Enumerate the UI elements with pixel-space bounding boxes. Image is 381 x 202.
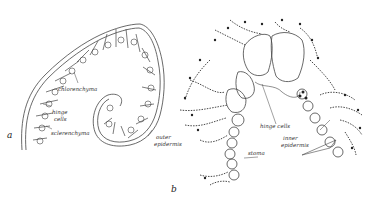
label-hinge-cells-a-line2: cells bbox=[54, 117, 67, 123]
label-hinge-cells-b: hinge cells bbox=[260, 124, 290, 130]
label-sclerenchyma: sclerenchyma bbox=[51, 131, 90, 137]
label-inner-epidermis-line2: epidermis bbox=[281, 143, 309, 149]
panel-letter-b: b bbox=[171, 184, 177, 194]
panel-b-detail-drawing bbox=[180, 19, 362, 185]
label-stoma: stoma bbox=[248, 151, 265, 157]
panel-letter-a: a bbox=[7, 130, 12, 140]
label-inner-epidermis-line1: inner bbox=[283, 136, 298, 142]
label-hinge-cells-a-line1: hinge bbox=[52, 110, 68, 116]
leaf-cross-section-figure bbox=[0, 0, 381, 202]
label-chlorenchyma: chlorenchyma bbox=[58, 87, 97, 93]
label-outer-epidermis-line2: epidermis bbox=[154, 142, 182, 148]
label-outer-epidermis-line1: outer bbox=[156, 135, 171, 141]
